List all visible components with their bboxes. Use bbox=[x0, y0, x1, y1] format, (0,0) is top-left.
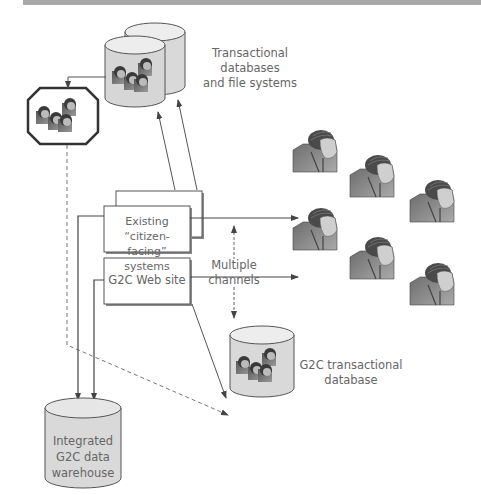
g2c-transactional-database-icon bbox=[230, 326, 294, 397]
data-warehouse-label-line2: G2C data bbox=[45, 449, 121, 465]
citizen-icon bbox=[350, 155, 394, 197]
citizen-icon bbox=[350, 237, 394, 279]
octagon-people-group-icon bbox=[28, 88, 98, 144]
existing-to-db-arrow-1 bbox=[158, 112, 175, 190]
citizens-group bbox=[293, 130, 454, 305]
transactional-dbs-label-line2: and file systems bbox=[186, 76, 314, 91]
g2c-web-site-label: G2C Web site bbox=[104, 273, 190, 288]
transactional-databases-icon bbox=[105, 23, 185, 107]
dbs-to-octagon-arrow bbox=[68, 77, 106, 88]
data-warehouse-label-line1: Integrated bbox=[45, 433, 121, 449]
multiple-channels-label: Multiple channels bbox=[202, 258, 266, 288]
g2c-transactional-db-label: G2C transactional database bbox=[296, 358, 406, 388]
g2c-web-site-label-text: G2C Web site bbox=[108, 273, 185, 287]
existing-to-db-arrow-2 bbox=[178, 100, 197, 190]
g2c-transactional-db-label-line1: G2C transactional bbox=[296, 358, 406, 373]
data-warehouse-label-line3: warehouse bbox=[45, 465, 121, 481]
existing-systems-label-line2: facing” systems bbox=[104, 244, 190, 274]
transactional-dbs-label: Transactional databases and file systems bbox=[186, 46, 314, 91]
citizen-icon bbox=[293, 208, 337, 250]
g2c-transactional-db-label-line2: database bbox=[296, 373, 406, 388]
citizen-icon bbox=[293, 130, 337, 172]
multiple-channels-label-line2: channels bbox=[202, 273, 266, 288]
multiple-channels-label-line1: Multiple bbox=[202, 258, 266, 273]
existing-to-warehouse-arrow bbox=[78, 216, 104, 400]
existing-systems-label: Existing “citizen- facing” systems bbox=[104, 214, 190, 274]
existing-systems-label-line1: Existing “citizen- bbox=[104, 214, 190, 244]
citizen-icon bbox=[410, 263, 454, 305]
citizen-icon bbox=[410, 180, 454, 222]
web-site-to-warehouse-arrow bbox=[94, 280, 104, 400]
web-site-to-g2c-db-arrow bbox=[192, 304, 226, 398]
data-warehouse-label: Integrated G2C data warehouse bbox=[45, 433, 121, 481]
transactional-dbs-label-line1: Transactional databases bbox=[186, 46, 314, 76]
